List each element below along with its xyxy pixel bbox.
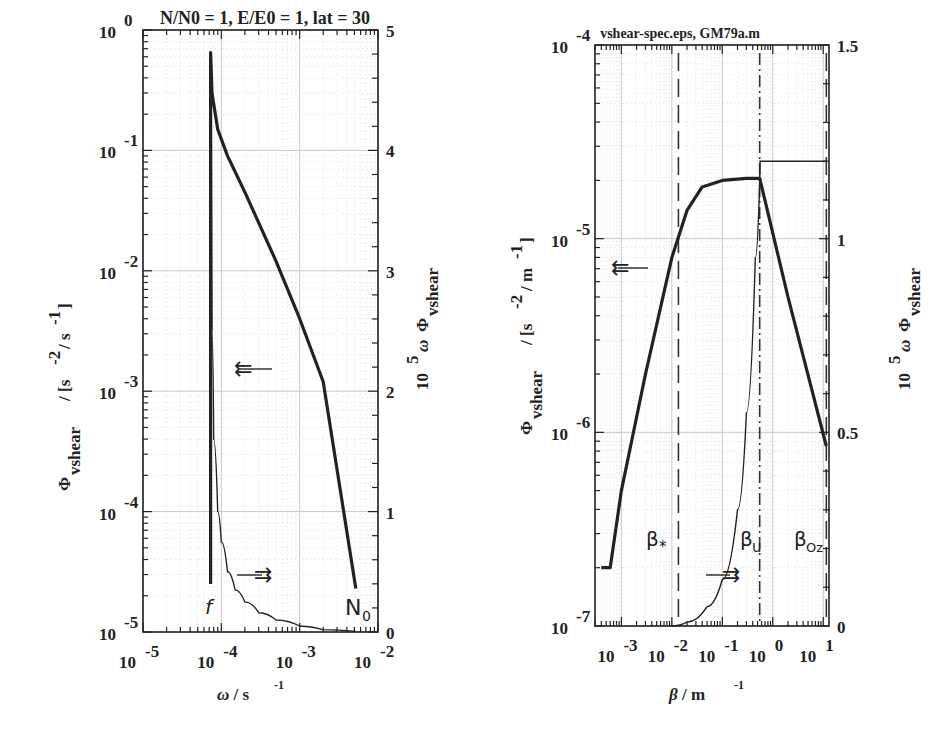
- y-tick-label: 10-3: [99, 372, 138, 403]
- svg-text:-1: -1: [734, 678, 744, 692]
- y-tick-label: 10-6: [551, 413, 590, 444]
- svg-text:⇉: ⇉: [254, 562, 272, 587]
- svg-text:10: 10: [99, 505, 116, 524]
- left-plot-area: [143, 30, 378, 632]
- svg-text:-5: -5: [576, 220, 590, 239]
- right-y-tick-label: 1: [837, 231, 846, 250]
- svg-text:10: 10: [99, 143, 116, 162]
- y-tick-label: 10-5: [99, 613, 138, 644]
- svg-text:-2: -2: [507, 295, 526, 309]
- right-y-tick-labels: 10-710-610-510-4: [551, 26, 591, 638]
- svg-text:10: 10: [749, 647, 766, 666]
- svg-text:ω: ω: [413, 340, 432, 352]
- svg-text:10: 10: [698, 647, 715, 666]
- svg-text:β: β: [740, 527, 753, 551]
- svg-text:Oz: Oz: [806, 540, 823, 555]
- svg-text:Φ: Φ: [517, 421, 536, 435]
- right-right-y-tick-labels: 00.511.5: [837, 37, 858, 637]
- svg-text:10: 10: [551, 232, 568, 251]
- left-y-tick-labels: 10-510-410-310-210-1100: [99, 11, 139, 644]
- x-tick-label: 10-1: [698, 636, 738, 666]
- x-tick-label: 100: [749, 636, 784, 666]
- svg-text:⇉: ⇉: [722, 562, 740, 587]
- right-right-y-axis-label: 10 5 ω Φ vshear: [885, 267, 924, 390]
- right-y-tick-label: 1.5: [837, 37, 858, 56]
- svg-text:/ m: / m: [517, 268, 536, 292]
- svg-text:⇇: ⇇: [234, 356, 252, 381]
- right-y-tick-label: 0: [386, 624, 395, 643]
- x-tick-label: 10-3: [597, 636, 637, 666]
- x-tick-label: 10-3: [276, 642, 316, 672]
- right-y-tick-label: 5: [386, 22, 395, 41]
- svg-text:-2: -2: [45, 351, 64, 365]
- svg-text:ω / s: ω / s: [217, 685, 250, 704]
- svg-text:10: 10: [895, 373, 914, 390]
- svg-text:-3: -3: [124, 372, 138, 391]
- svg-text:Φ: Φ: [55, 477, 74, 491]
- svg-text:10: 10: [551, 425, 568, 444]
- right-y-axis-label: Φ vshear / [s -2 / m -1 ]: [507, 237, 546, 435]
- svg-text:β: β: [794, 527, 807, 551]
- svg-text:5: 5: [403, 356, 422, 365]
- svg-text:5: 5: [885, 356, 904, 365]
- svg-text:10: 10: [551, 619, 568, 638]
- svg-text:10: 10: [276, 653, 293, 672]
- svg-text:-4: -4: [223, 642, 238, 661]
- left-right-y-axis-label: 10 5 ω Φ vshear: [403, 267, 442, 390]
- svg-text:-2: -2: [674, 636, 688, 655]
- svg-text:-2: -2: [124, 252, 138, 271]
- svg-text:-5: -5: [145, 642, 159, 661]
- svg-text:10: 10: [648, 647, 665, 666]
- svg-text:-7: -7: [576, 607, 591, 626]
- svg-text:vshear: vshear: [527, 370, 546, 419]
- svg-text:10: 10: [99, 264, 116, 283]
- svg-text:N: N: [345, 595, 361, 620]
- right-x-axis-label: β / m -1: [668, 678, 744, 704]
- x-tick-label: 101: [799, 636, 834, 666]
- y-tick-label: 10-4: [99, 493, 139, 524]
- svg-text:Φ: Φ: [413, 318, 432, 332]
- svg-text:10: 10: [413, 373, 432, 390]
- svg-text:vshear: vshear: [65, 426, 84, 475]
- y-tick-label: 10-5: [551, 220, 590, 251]
- left-x-tick-labels: 10-510-410-310-2: [119, 642, 394, 672]
- svg-text:-2: -2: [380, 642, 394, 661]
- svg-text:-1: -1: [274, 678, 284, 692]
- svg-text:ω: ω: [895, 340, 914, 352]
- svg-text:10: 10: [99, 23, 116, 42]
- svg-text:vshear: vshear: [423, 267, 442, 316]
- y-tick-label: 10-4: [551, 26, 591, 57]
- left-plot-title: N/N0 = 1, E/E0 = 1, lat = 30: [160, 8, 370, 28]
- svg-text:u: u: [752, 538, 762, 556]
- right-y-tick-label: 0.5: [837, 424, 858, 443]
- svg-text:10: 10: [597, 647, 614, 666]
- svg-text:10: 10: [799, 647, 816, 666]
- svg-text:1: 1: [825, 636, 834, 655]
- left-y-axis-label: Φ vshear / [s -2 / s -1 ]: [45, 303, 84, 491]
- figure-canvas: N/N0 = 1, E/E0 = 1, lat = 30 ⇇ ⇉ f N 0 1…: [0, 0, 936, 740]
- svg-text:]: ]: [55, 303, 74, 309]
- x-tick-label: 10-4: [197, 642, 238, 672]
- y-tick-label: 10-2: [99, 252, 138, 283]
- svg-text:-5: -5: [124, 613, 138, 632]
- svg-text:-4: -4: [124, 493, 139, 512]
- left-right-y-tick-labels: 012345: [386, 22, 395, 643]
- x-tick-label: 10-2: [354, 642, 394, 672]
- y-tick-label: 10-7: [551, 607, 591, 638]
- right-plot: vshear-spec.eps, GM79a.m ⇇ ⇉ β * β u β O…: [507, 26, 924, 704]
- right-y-tick-label: 1: [386, 504, 395, 523]
- svg-text:-4: -4: [576, 26, 591, 45]
- svg-text:0: 0: [775, 636, 784, 655]
- svg-text:0: 0: [124, 11, 133, 30]
- svg-text:-1: -1: [724, 636, 738, 655]
- svg-text:10: 10: [197, 653, 214, 672]
- right-y-tick-label: 2: [386, 383, 395, 402]
- svg-text:10: 10: [119, 653, 136, 672]
- y-tick-label: 10-1: [99, 131, 138, 162]
- svg-text:Φ: Φ: [895, 318, 914, 332]
- left-plot: N/N0 = 1, E/E0 = 1, lat = 30 ⇇ ⇉ f N 0 1…: [45, 8, 442, 704]
- right-y-tick-label: 3: [386, 263, 395, 282]
- x-tick-label: 10-2: [648, 636, 688, 666]
- left-x-axis-label: ω / s -1: [217, 678, 284, 704]
- svg-text:/ [s: / [s: [517, 323, 536, 346]
